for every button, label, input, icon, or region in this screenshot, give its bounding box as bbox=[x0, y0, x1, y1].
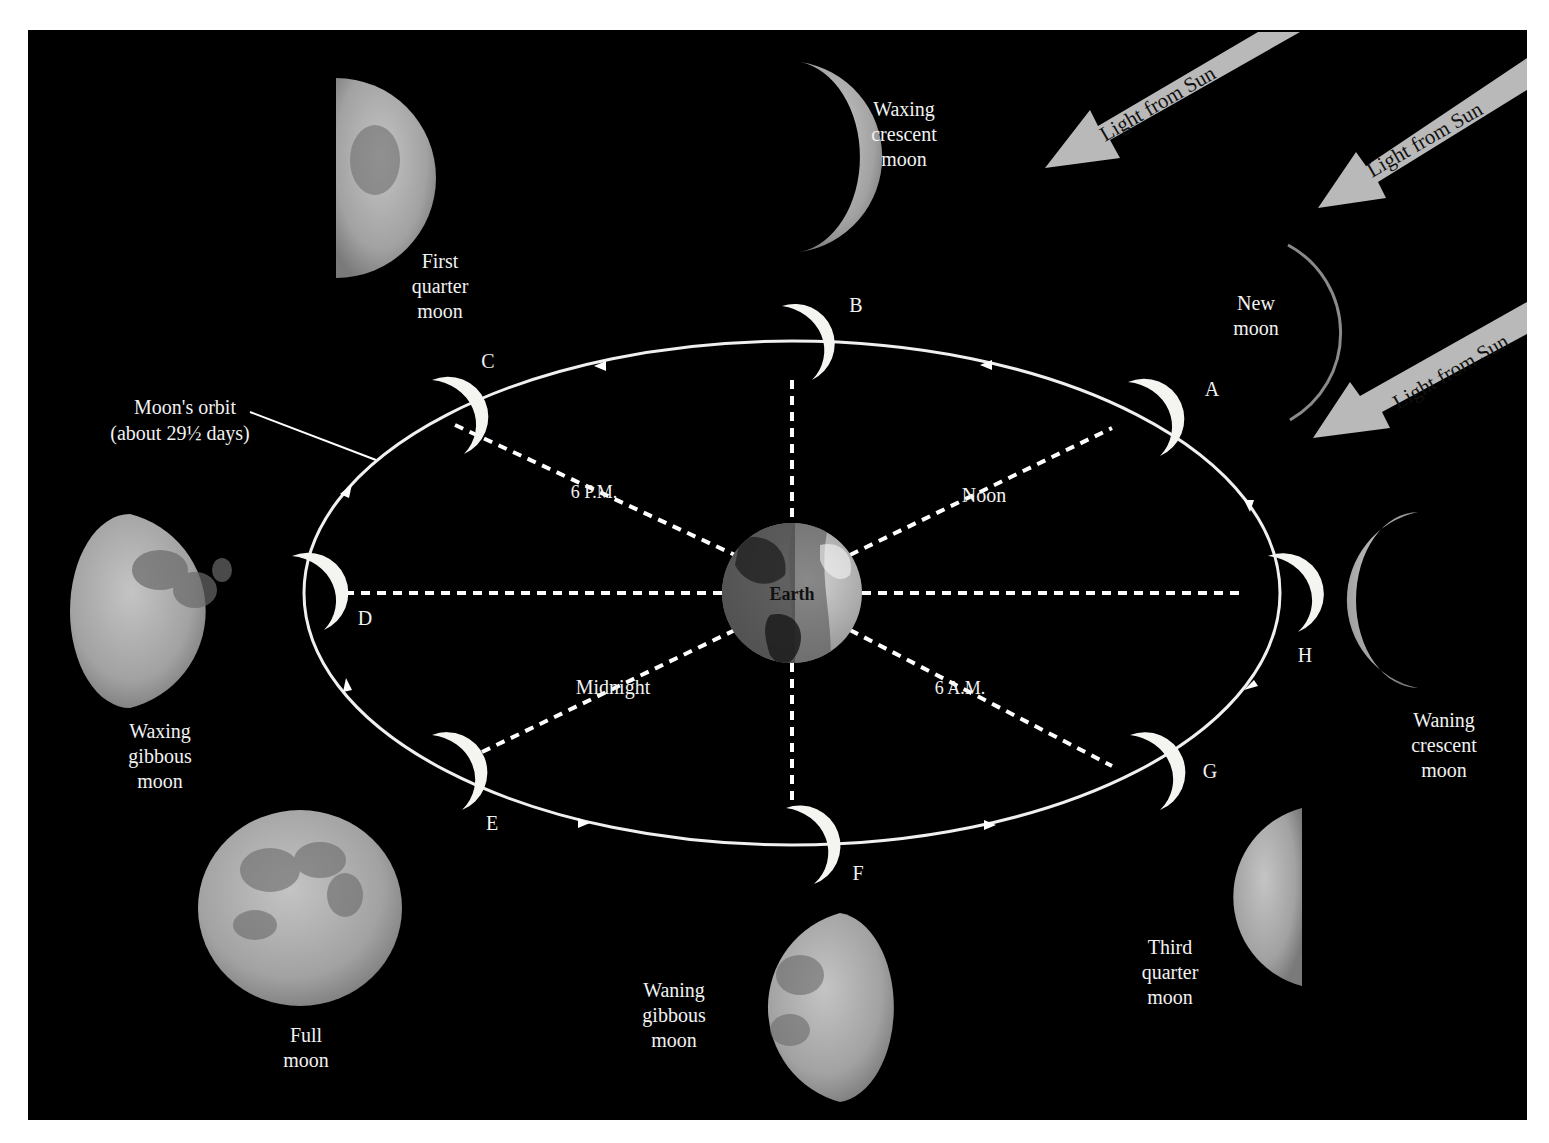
position-label-d: D bbox=[358, 607, 372, 629]
new-moon-image bbox=[1288, 245, 1341, 420]
position-label-g: G bbox=[1203, 760, 1217, 782]
third-quarter-label: quarter bbox=[1142, 961, 1199, 984]
orbit-label: Moon's orbit bbox=[134, 396, 236, 418]
orbit-period-label: (about 29½ days) bbox=[110, 422, 249, 445]
waxing-crescent-image bbox=[800, 62, 882, 252]
waning-gibbous-image bbox=[768, 913, 894, 1102]
third-quarter-label: Third bbox=[1148, 936, 1192, 958]
third-quarter-image bbox=[1233, 808, 1302, 986]
waxing-gibbous-label: moon bbox=[137, 770, 183, 792]
waning-crescent-label: Waning bbox=[1413, 709, 1475, 732]
waxing-gibbous-label: Waxing bbox=[129, 720, 191, 743]
first-quarter-label: moon bbox=[417, 300, 463, 322]
waxing-crescent-label: crescent bbox=[871, 123, 937, 145]
position-label-f: F bbox=[852, 862, 863, 884]
position-label-c: C bbox=[481, 350, 494, 372]
third-quarter-label: moon bbox=[1147, 986, 1193, 1008]
new-moon-label: New bbox=[1237, 292, 1275, 314]
time-label-midnight: Midnight bbox=[576, 676, 651, 699]
waning-gibbous-label: moon bbox=[651, 1029, 697, 1051]
sunlight-label: Light from Sun bbox=[1363, 97, 1488, 183]
position-label-b: B bbox=[849, 294, 862, 316]
position-label-h: H bbox=[1298, 644, 1312, 666]
waxing-gibbous-image bbox=[70, 514, 206, 708]
time-label-6am: 6 A.M. bbox=[935, 678, 986, 698]
waxing-gibbous-label: gibbous bbox=[128, 745, 192, 768]
waning-crescent-label: crescent bbox=[1411, 734, 1477, 756]
sunlight-label: Light from Sun bbox=[1096, 61, 1221, 147]
sunlight-arrow-1: Light from Sun bbox=[1045, 32, 1300, 168]
waxing-crescent-label: Waxing bbox=[873, 98, 935, 121]
orbit-moon-c bbox=[432, 377, 488, 454]
first-quarter-label: quarter bbox=[412, 275, 469, 298]
time-label-6pm: 6 P.M. bbox=[571, 482, 618, 502]
full-moon-label: moon bbox=[283, 1049, 329, 1071]
orbit-label-leader bbox=[250, 412, 376, 460]
waning-gibbous-label: Waning bbox=[643, 979, 705, 1002]
position-label-a: A bbox=[1205, 378, 1220, 400]
orbit-moon-d bbox=[292, 553, 348, 630]
full-moon-label: Full bbox=[290, 1024, 323, 1046]
moon-phases-diagram: Light from Sun Light from Sun Light from… bbox=[0, 0, 1549, 1143]
waning-crescent-image bbox=[1347, 512, 1418, 688]
orbit-moon-a bbox=[1128, 379, 1184, 456]
waxing-crescent-label: moon bbox=[881, 148, 927, 170]
full-moon-image bbox=[198, 810, 402, 1006]
orbit-moon-e bbox=[432, 732, 487, 810]
waning-crescent-label: moon bbox=[1421, 759, 1467, 781]
time-label-noon: Noon bbox=[962, 484, 1006, 506]
earth-label: Earth bbox=[770, 584, 815, 604]
sunlight-arrow-2: Light from Sun bbox=[1318, 58, 1527, 208]
first-quarter-label: First bbox=[422, 250, 459, 272]
sunlight-arrow-3: Light from Sun bbox=[1313, 302, 1527, 438]
position-label-e: E bbox=[486, 812, 498, 834]
earth: Earth bbox=[700, 520, 862, 670]
new-moon-label: moon bbox=[1233, 317, 1279, 339]
waning-gibbous-label: gibbous bbox=[642, 1004, 706, 1027]
